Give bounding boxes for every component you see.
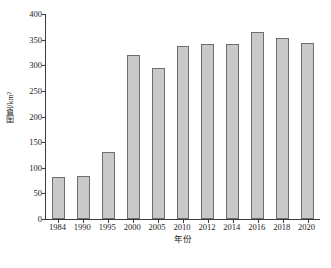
y-tick-label: 250 — [29, 87, 42, 96]
y-tick-mark — [42, 91, 46, 92]
y-tick-mark — [42, 117, 46, 118]
y-tick-mark — [42, 65, 46, 66]
bar — [77, 176, 90, 219]
bar — [52, 177, 65, 219]
x-tick-label: 2010 — [174, 222, 191, 232]
y-tick-mark — [42, 142, 46, 143]
y-tick-label: 200 — [29, 112, 42, 121]
y-tick-label: 350 — [29, 35, 42, 44]
bar-chart: 围垦/km² 050100150200250300350400 19841990… — [0, 0, 331, 268]
bar — [226, 44, 239, 219]
y-tick-label: 300 — [29, 61, 42, 70]
y-tick-label: 50 — [34, 189, 43, 198]
bar — [152, 68, 165, 219]
y-tick-label: 400 — [29, 10, 42, 19]
x-tick-label: 2014 — [223, 222, 240, 232]
plot-area — [45, 14, 320, 220]
bar — [301, 43, 314, 219]
y-tick-mark — [42, 40, 46, 41]
y-tick-label: 150 — [29, 138, 42, 147]
x-tick-label: 2000 — [124, 222, 141, 232]
y-tick-label: 100 — [29, 164, 42, 173]
x-tick-label: 1984 — [49, 222, 66, 232]
bar — [201, 44, 214, 219]
x-tick-label: 2018 — [273, 222, 290, 232]
bar — [127, 55, 140, 219]
y-tick-mark — [42, 193, 46, 194]
x-tick-label: 2005 — [149, 222, 166, 232]
y-tick-mark — [42, 14, 46, 15]
bar — [102, 152, 115, 219]
y-tick-mark — [42, 219, 46, 220]
y-axis-tick-labels: 050100150200250300350400 — [18, 14, 42, 220]
bar — [177, 46, 190, 219]
x-tick-label: 1990 — [74, 222, 91, 232]
x-tick-label: 2016 — [248, 222, 265, 232]
bar — [251, 32, 264, 219]
x-tick-label: 2012 — [198, 222, 215, 232]
bar — [276, 38, 289, 219]
x-tick-label: 2020 — [298, 222, 315, 232]
y-tick-mark — [42, 168, 46, 169]
x-tick-label: 1995 — [99, 222, 116, 232]
x-axis-title: 年份 — [45, 234, 320, 244]
